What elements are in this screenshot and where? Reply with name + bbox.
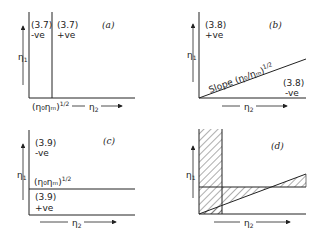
left-eq-a: (3.7) bbox=[31, 20, 52, 30]
panel-label-b: (b) bbox=[269, 20, 282, 30]
boundary-label-a: (η₀ηₘ)1/2 bbox=[32, 100, 69, 112]
upper-eq-c: (3.9) bbox=[35, 138, 56, 148]
upper-sign-c: -ve bbox=[35, 148, 49, 158]
panel-label-d: (d) bbox=[271, 141, 284, 151]
upper-eq-b: (3.8) bbox=[205, 20, 226, 30]
right-eq-a: (3.7) bbox=[57, 20, 78, 30]
right-sign-a: +ve bbox=[57, 30, 76, 40]
lower-sign-b: -ve bbox=[285, 88, 299, 98]
x-label-d: η2 bbox=[244, 218, 254, 229]
x-label-a: η2 bbox=[89, 102, 99, 113]
lower-eq-c: (3.9) bbox=[35, 192, 56, 202]
panel-label-c: (c) bbox=[103, 136, 116, 146]
lower-eq-b: (3.8) bbox=[283, 78, 304, 88]
left-sign-a: -ve bbox=[31, 30, 45, 40]
y-label-a: η1 bbox=[18, 52, 28, 63]
x-label-c: η2 bbox=[72, 218, 82, 229]
diagram-canvas: η1 (3.7) -ve (3.7) +ve (a) (η₀ηₘ)1/2 η2 … bbox=[0, 0, 322, 239]
boundary-label-c: (η₀ηₘ)1/2 bbox=[34, 175, 71, 187]
panel-label-a: (a) bbox=[102, 20, 115, 30]
panel-d: η1 (d) η2 bbox=[186, 129, 306, 229]
panel-c: η1 (3.9) -ve (c) (η₀ηₘ)1/2 (3.9) +ve η2 bbox=[17, 130, 135, 229]
panel-a: η1 (3.7) -ve (3.7) +ve (a) (η₀ηₘ)1/2 η2 bbox=[18, 12, 135, 113]
y-label-b: η1 bbox=[187, 50, 197, 61]
lower-sign-c: +ve bbox=[35, 203, 54, 213]
y-label-c: η1 bbox=[17, 170, 27, 181]
y-label-d: η1 bbox=[186, 170, 196, 181]
slope-label-b: Slope (η₀/ηₘ)1/2 bbox=[207, 60, 275, 95]
panel-b: η1 (3.8) +ve (b) Slope (η₀/ηₘ)1/2 (3.8) … bbox=[187, 12, 306, 113]
x-label-b: η2 bbox=[244, 102, 254, 113]
upper-sign-b: +ve bbox=[205, 30, 224, 40]
hatched-region-vertical bbox=[199, 129, 222, 214]
